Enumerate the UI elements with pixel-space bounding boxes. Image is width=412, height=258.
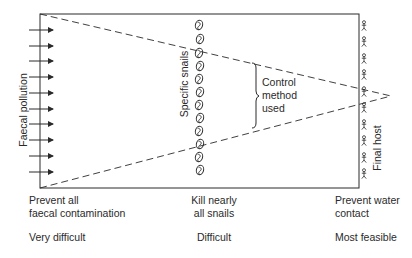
difficulty-label: Difficult bbox=[182, 231, 246, 244]
snail-icon bbox=[195, 112, 204, 123]
snail-icon bbox=[195, 86, 204, 97]
difficulty-label: Very difficult bbox=[29, 231, 125, 244]
person-icon bbox=[362, 37, 366, 47]
person-icon bbox=[362, 120, 366, 130]
snail-icon bbox=[194, 151, 203, 162]
action-line: Kill nearly bbox=[182, 194, 246, 207]
person-icon bbox=[362, 54, 366, 64]
snail-icon bbox=[195, 60, 204, 71]
person-icon bbox=[362, 153, 366, 163]
person-icon bbox=[362, 169, 366, 179]
person-icon bbox=[362, 87, 366, 97]
person-icon bbox=[362, 136, 366, 146]
person-icon bbox=[362, 103, 366, 113]
snail-column bbox=[194, 19, 204, 175]
action-line: Prevent water bbox=[335, 194, 400, 207]
snail-icon bbox=[194, 125, 203, 136]
action-line: faecal contamination bbox=[29, 207, 125, 220]
control-line-1: Control bbox=[262, 76, 297, 89]
action-line: Prevent all bbox=[29, 194, 125, 207]
control-line-3: used bbox=[262, 102, 297, 115]
pollution-arrows bbox=[29, 30, 53, 172]
action-line: contact bbox=[335, 207, 400, 220]
column-water-contact: Prevent water contact Most feasible bbox=[335, 194, 400, 244]
action-prevent-water-contact: Prevent water contact bbox=[335, 194, 400, 220]
control-method-label: Control method used bbox=[262, 76, 297, 115]
action-prevent-contamination: Prevent all faecal contamination bbox=[29, 194, 125, 220]
snail-icon bbox=[195, 138, 204, 149]
snail-icon bbox=[194, 73, 203, 84]
person-icon bbox=[362, 21, 366, 31]
snail-icon bbox=[194, 99, 203, 110]
column-faecal: Prevent all faecal contamination Very di… bbox=[29, 194, 125, 244]
column-snails: Kill nearly all snails Difficult bbox=[182, 194, 246, 244]
snail-icon bbox=[194, 19, 203, 30]
snail-icon bbox=[195, 164, 204, 175]
person-icon bbox=[362, 70, 366, 80]
control-line-2: method bbox=[262, 89, 297, 102]
brace-icon bbox=[252, 63, 259, 128]
action-line: all snails bbox=[182, 207, 246, 220]
specific-snails-label: Specific snails bbox=[178, 39, 190, 129]
dashed-converging-lines bbox=[40, 14, 391, 188]
action-kill-snails: Kill nearly all snails bbox=[182, 194, 246, 220]
snail-icon bbox=[195, 33, 204, 44]
snail-icon bbox=[194, 47, 203, 58]
final-host-label: Final host bbox=[371, 118, 383, 178]
difficulty-label: Most feasible bbox=[335, 231, 400, 244]
host-column bbox=[362, 21, 366, 179]
faecal-pollution-label: Faecal pollution bbox=[17, 65, 29, 155]
